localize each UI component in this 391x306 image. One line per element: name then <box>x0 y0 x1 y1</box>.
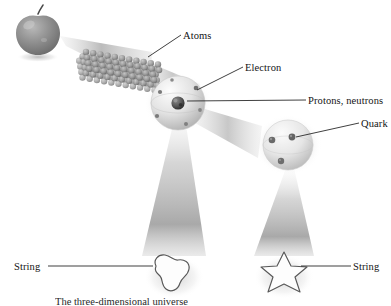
string-loop <box>144 255 204 299</box>
label-protons-neutrons: Protons, neutrons <box>308 95 383 106</box>
figure-caption: The three-dimensional universe <box>55 296 188 306</box>
label-string-left: String <box>14 261 40 272</box>
leader-line-atoms <box>148 35 181 57</box>
label-quark: Quark <box>361 118 388 129</box>
magnification-cone-nucleus-to-string-left <box>142 112 206 256</box>
atom-sphere <box>144 73 212 133</box>
proton-sphere <box>254 115 322 175</box>
physics-scale-diagram <box>0 0 391 306</box>
nucleus <box>171 96 184 109</box>
label-atoms: Atoms <box>183 30 212 41</box>
string-star-loop <box>254 252 314 299</box>
label-electron: Electron <box>245 62 281 73</box>
magnification-cone-quark-to-string-right <box>254 168 314 256</box>
label-string-right: String <box>353 261 379 272</box>
apple <box>16 5 60 62</box>
leader-line-electron <box>197 67 243 90</box>
